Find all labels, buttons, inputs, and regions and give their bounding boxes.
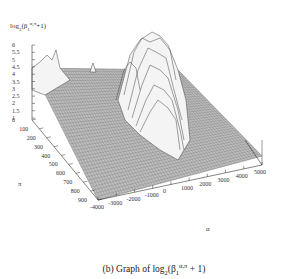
z-tick-label: 4.5 <box>12 64 20 70</box>
z-tick-label: 3 <box>12 86 15 92</box>
x-tick-label: 5000 <box>254 169 266 175</box>
x-tick-label: 0 <box>163 188 166 194</box>
z-tick-label: 3.5 <box>12 79 20 85</box>
x-tick-label: -1000 <box>145 192 159 198</box>
figure-caption: (b) Graph of log2(β1α,π + 1) <box>0 262 308 276</box>
y-tick-label: 100 <box>19 126 28 132</box>
x-tick-label: -2000 <box>126 196 140 202</box>
y-tick-label: 200 <box>27 135 36 141</box>
z-tick-label: 2 <box>12 100 15 106</box>
x-tick-label: 4000 <box>236 173 248 179</box>
z-tick-label: 1.5 <box>12 108 20 114</box>
y-tick-label: 400 <box>41 153 50 159</box>
y-tick-label: 500 <box>49 161 58 167</box>
z-tick-label: 6 <box>12 42 15 48</box>
z-tick-label: 2.5 <box>12 93 20 99</box>
x-tick-label: 1000 <box>181 185 193 191</box>
y-tick-label: 300 <box>34 144 43 150</box>
z-tick-label: 5.5 <box>12 49 20 55</box>
x-axis-label: α <box>206 225 210 233</box>
y-tick-label: 600 <box>56 170 65 176</box>
y-tick-label: 900 <box>78 197 87 203</box>
x-tick-label: -3000 <box>108 200 122 206</box>
x-tick-label: 2000 <box>199 181 211 187</box>
y-tick-label: 800 <box>71 188 80 194</box>
y-tick-label: 0 <box>12 117 15 123</box>
z-tick-label: 5 <box>12 57 15 63</box>
x-tick-label: 3000 <box>218 177 230 183</box>
surface-plot: 11.522.533.544.555.56 010020030040050060… <box>0 0 308 279</box>
y-tick-label: 700 <box>63 179 72 185</box>
x-tick-label: -4000 <box>90 204 104 210</box>
z-tick-label: 4 <box>12 71 15 77</box>
z-axis-label: log2(β1α,π+1) <box>10 21 46 32</box>
y-axis-label: π <box>18 180 22 188</box>
